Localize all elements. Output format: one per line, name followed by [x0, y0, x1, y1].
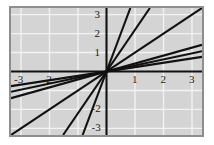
plot-area: [11, 8, 202, 135]
y-tick-label-3: 3: [95, 9, 101, 20]
x-tick-label-3: 3: [189, 74, 195, 85]
x-tick-label--2: -2: [42, 74, 51, 85]
y-tick-label-2: 2: [95, 28, 101, 39]
x-tick-label-1: 1: [132, 74, 138, 85]
x-tick-label--3: -3: [14, 74, 23, 85]
lines-chart: [11, 8, 202, 135]
y-tick-label--2: -2: [92, 103, 101, 114]
y-tick-label-1: 1: [95, 47, 101, 58]
y-tick-label--3: -3: [92, 122, 101, 133]
x-tick-label-2: 2: [161, 74, 167, 85]
figure-canvas: -3-2123123-2-3: [0, 0, 214, 145]
